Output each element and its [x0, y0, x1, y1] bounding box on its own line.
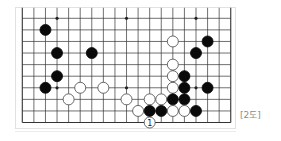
white-stone [179, 105, 190, 116]
black-stone [40, 24, 51, 35]
black-stone [191, 48, 202, 59]
star-point [55, 17, 58, 20]
black-stone [179, 94, 190, 105]
white-stone [156, 94, 167, 105]
white-stone [167, 105, 178, 116]
black-stone [191, 105, 202, 116]
black-stone [52, 71, 63, 82]
star-point [194, 17, 197, 20]
white-stone [167, 59, 178, 70]
black-stone [144, 105, 155, 116]
white-stone [133, 105, 144, 116]
white-stone [167, 82, 178, 93]
star-point [55, 86, 58, 89]
divider [15, 131, 236, 132]
black-stone [156, 105, 167, 116]
move-number-label: 1 [147, 119, 152, 128]
white-stone [144, 94, 155, 105]
black-stone [86, 48, 97, 59]
star-point [125, 86, 128, 89]
white-stone [98, 82, 109, 93]
white-stone [75, 82, 86, 93]
black-stone [179, 82, 190, 93]
black-stone [202, 82, 213, 93]
white-stone [121, 94, 132, 105]
star-point [125, 17, 128, 20]
go-board: 1 [0, 0, 281, 141]
black-stone [179, 71, 190, 82]
star-point [194, 86, 197, 89]
black-stone [202, 36, 213, 47]
diagram-caption: [2도] [240, 108, 261, 121]
black-stone [52, 48, 63, 59]
white-stone [63, 94, 74, 105]
white-stone [167, 36, 178, 47]
black-stone [167, 94, 178, 105]
white-stone [167, 71, 178, 82]
black-stone [40, 82, 51, 93]
